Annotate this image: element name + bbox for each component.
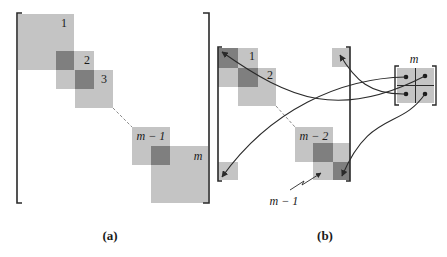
label-block-m-minus-1: m − 1 (137, 129, 166, 143)
label-block-3: 3 (101, 72, 107, 86)
label-b-block-m-minus-2: m − 2 (300, 129, 329, 143)
overlap-2-3 (75, 70, 94, 89)
cell-b-tl-dark-2 (238, 68, 258, 87)
dashed-continuation (113, 108, 132, 127)
caption-b: (b) (317, 228, 333, 243)
block-matrix-figure: 1 2 3 m − 1 m (a) (0, 0, 447, 257)
label-block-2: 2 (84, 53, 90, 67)
overlap-1-2 (56, 51, 74, 70)
label-block-1: 1 (61, 16, 67, 30)
cell-b-tl-dark-1 (218, 48, 238, 68)
small-matrix-m (395, 66, 436, 105)
cell-b-br-light-right (333, 143, 350, 162)
cell-b-br-dark-1 (313, 143, 333, 162)
panel-a: 1 2 3 m − 1 m (a) (17, 13, 209, 243)
cell-b-tl-light-2 (218, 68, 238, 87)
cell-b-bottom-left (218, 162, 238, 180)
overlap-m1-m (151, 146, 170, 165)
label-b-block-2: 2 (267, 68, 273, 82)
label-b-block-1: 1 (249, 49, 255, 63)
arrow-br-to-bottom-right (342, 94, 425, 176)
label-small-matrix-m: m (410, 52, 419, 66)
label-block-m: m (194, 149, 203, 163)
pointer-m-minus-1 (290, 173, 321, 190)
caption-a: (a) (102, 228, 117, 243)
panel-b: 1 2 m − 2 m − 1 m (b) (218, 47, 436, 243)
cell-b-br-light-bottom (313, 162, 333, 180)
dashed-continuation-b (276, 106, 295, 127)
label-b-m-minus-1: m − 1 (270, 194, 299, 208)
